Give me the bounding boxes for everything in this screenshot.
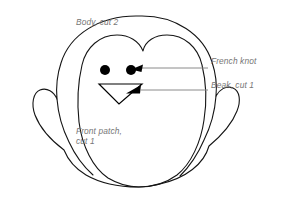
label-beak: Beak, cut 1 — [211, 80, 254, 90]
label-front-patch-line1: Front patch, — [76, 126, 122, 136]
beak-triangle — [99, 84, 142, 104]
label-french-knot: French knot — [211, 56, 256, 66]
penguin-pattern-drawing — [0, 0, 287, 203]
front-patch-outline — [78, 35, 206, 187]
diagram-canvas: Body, cut 2 Front patch,cut 1 French kno… — [0, 0, 287, 203]
label-front-patch-line2: cut 1 — [76, 136, 95, 146]
label-front-patch: Front patch,cut 1 — [76, 126, 122, 146]
left-eye-french-knot — [100, 65, 110, 75]
label-body: Body, cut 2 — [76, 17, 118, 27]
beak-arrowhead — [126, 85, 141, 94]
